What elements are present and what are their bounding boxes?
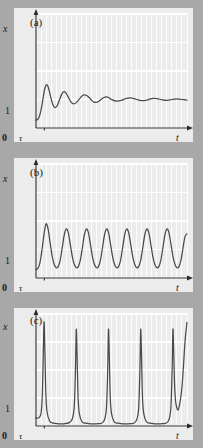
panel-a-plot-frame (14, 8, 193, 142)
panel-a-label: (a) (30, 17, 42, 28)
panel-c-origin-label: 0 (2, 431, 7, 441)
panel-a-chart (14, 8, 193, 142)
panel-b-tau-label: τ (19, 284, 22, 293)
panel-b-y-axis-label: x (3, 174, 7, 184)
panel-b: x (b) 1 0 τ t (0, 150, 203, 300)
panel-a-tau-label: τ (19, 134, 22, 143)
panel-c-x-axis-label: t (176, 431, 179, 441)
panel-a-origin-label: 0 (2, 133, 7, 143)
panel-b-plot-frame (14, 158, 193, 292)
panel-c-label: (c) (30, 315, 42, 326)
panel-a-y-axis-label: x (3, 24, 7, 34)
panel-c-chart (14, 308, 193, 440)
figure-container: x (a) 1 0 τ t x (b) 1 0 τ t x (c) 1 0 τ … (0, 0, 203, 448)
panel-c-plot-frame (14, 308, 193, 440)
panel-b-chart (14, 158, 193, 292)
panel-b-origin-label: 0 (2, 283, 7, 293)
panel-b-ytick-one: 1 (5, 256, 10, 266)
panel-b-x-axis-label: t (176, 283, 179, 293)
panel-c: x (c) 1 0 τ t (0, 300, 203, 448)
panel-a-x-axis-label: t (176, 133, 179, 143)
panel-a-plot-area (14, 8, 193, 142)
panel-c-plot-area (14, 308, 193, 440)
panel-c-y-axis-label: x (3, 322, 7, 332)
panel-c-ytick-one: 1 (5, 404, 10, 414)
panel-a: x (a) 1 0 τ t (0, 0, 203, 150)
panel-b-label: (b) (30, 167, 43, 178)
panel-b-plot-area (14, 158, 193, 292)
panel-a-ytick-one: 1 (5, 106, 10, 116)
panel-c-tau-label: τ (19, 432, 22, 441)
